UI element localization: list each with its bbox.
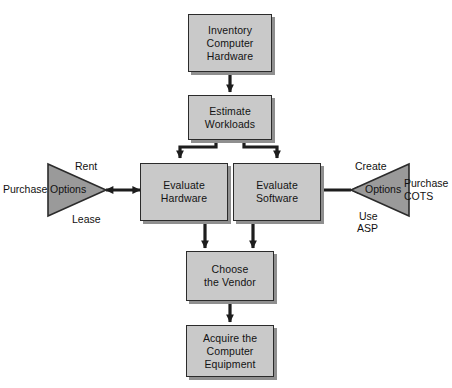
node-acquire-label: Acquire the Computer Equipment [200, 332, 260, 371]
node-evaluate-software[interactable]: Evaluate Software [233, 163, 321, 221]
options-left-outer-label: Purchase [3, 183, 47, 196]
connector-estimate-to-evaluate-hardware [180, 140, 216, 158]
node-evaluate-software-label: Evaluate Software [253, 179, 301, 205]
node-estimate-label: Estimate Workloads [202, 105, 258, 131]
options-right-outer-label-cots: COTS [404, 190, 433, 203]
options-right-bottom-label-use: Use [359, 210, 378, 223]
node-choose-the-vendor[interactable]: Choose the Vendor [186, 251, 274, 301]
node-evaluate-hardware[interactable]: Evaluate Hardware [140, 163, 228, 221]
node-estimate-workloads[interactable]: Estimate Workloads [188, 95, 272, 140]
node-inventory-label: Inventory Computer Hardware [204, 24, 257, 63]
options-left-inner-label: Options [50, 183, 86, 195]
node-acquire-computer-equipment[interactable]: Acquire the Computer Equipment [186, 325, 274, 377]
options-left-top-label: Rent [75, 160, 97, 173]
options-right-outer-label-purchase: Purchase [404, 177, 448, 190]
options-left-bottom-label: Lease [72, 213, 101, 226]
flowchart-canvas: Hardware and Software [0, 0, 452, 388]
node-evaluate-hardware-label: Evaluate Hardware [158, 179, 210, 205]
connector-estimate-to-evaluate-software [244, 140, 277, 158]
options-right-bottom-label-asp: ASP [357, 222, 378, 235]
node-inventory-computer-hardware[interactable]: Inventory Computer Hardware [188, 14, 272, 72]
node-choose-vendor-label: Choose the Vendor [201, 263, 259, 289]
figure-caption-fragment: Hardware and Software [0, 0, 452, 4]
figure-caption-text: Hardware and Software [182, 3, 270, 4]
options-right-top-label: Create [355, 160, 387, 173]
options-right-inner-label: Options [365, 183, 401, 195]
